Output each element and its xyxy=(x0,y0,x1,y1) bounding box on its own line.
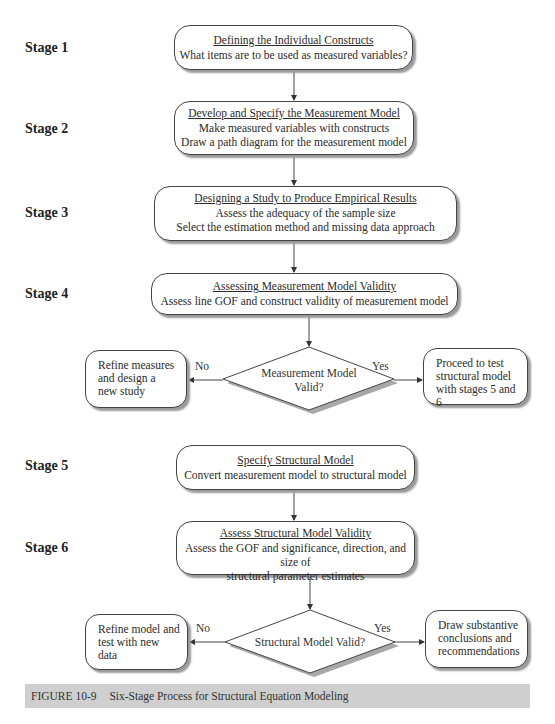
refine-measures-line-3: new study xyxy=(98,385,180,398)
stage-3-label: Stage 3 xyxy=(25,205,68,221)
stage-5-title: Specify Structural Model xyxy=(177,453,414,467)
stage-5-label: Stage 5 xyxy=(25,458,68,474)
stage-2-line-2: Draw a path diagram for the measurement … xyxy=(175,135,413,149)
decision-2-question-line-1: Structural Model Valid? xyxy=(245,635,375,649)
stage-1-title: Defining the Individual Constructs xyxy=(175,33,412,47)
stage-4-title: Assessing Measurement Model Validity xyxy=(152,279,457,293)
decision-1-question-line-2: Valid? xyxy=(243,380,375,394)
stage-4-box: Assessing Measurement Model Validity Ass… xyxy=(151,273,458,315)
refine-model-line-2: test with new xyxy=(98,636,181,649)
stage-3-title: Designing a Study to Produce Empirical R… xyxy=(155,191,456,205)
stage-1-box: Defining the Individual Constructs What … xyxy=(174,25,413,70)
decision-1-yes-label: Yes xyxy=(372,360,389,372)
stage-6-label: Stage 6 xyxy=(25,540,68,556)
refine-model-box: Refine model and test with new data xyxy=(85,614,188,670)
draw-conclusions-line-3: recommendations xyxy=(438,645,521,658)
draw-conclusions-line-1: Draw substantive xyxy=(438,619,521,632)
proceed-line-1: Proceed to test xyxy=(436,357,521,370)
proceed-line-2: structural model xyxy=(436,370,521,383)
refine-model-line-3: data xyxy=(98,649,181,662)
stage-4-label: Stage 4 xyxy=(25,286,68,302)
decision-2-question: Structural Model Valid? xyxy=(245,635,375,649)
refine-measures-line-2: and design a xyxy=(98,372,180,385)
proceed-to-test-box: Proceed to test structural model with st… xyxy=(423,348,528,405)
stage-2-title: Develop and Specify the Measurement Mode… xyxy=(175,106,413,120)
stage-6-title: Assess Structural Model Validity xyxy=(177,526,414,540)
stage-2-label: Stage 2 xyxy=(25,121,68,137)
draw-conclusions-box: Draw substantive conclusions and recomme… xyxy=(425,610,528,668)
decision-1-question-line-1: Measurement Model xyxy=(243,366,375,380)
stage-1-label: Stage 1 xyxy=(25,40,68,56)
refine-model-line-1: Refine model and xyxy=(98,623,181,636)
figure-caption: FIGURE 10-9 Six-Stage Process for Struct… xyxy=(25,684,530,708)
decision-1-question: Measurement Model Valid? xyxy=(243,366,375,394)
figure-caption-text: Six-Stage Process for Structural Equatio… xyxy=(109,690,348,702)
stage-6-line-1: Assess the GOF and significance, directi… xyxy=(177,541,414,569)
stage-5-line: Convert measurement model to structural … xyxy=(177,468,414,482)
stage-2-line-1: Make measured variables with constructs xyxy=(175,121,413,135)
stage-3-line-2: Select the estimation method and missing… xyxy=(155,220,456,234)
figure-number: FIGURE 10-9 xyxy=(31,690,97,702)
stage-6-box: Assess Structural Model Validity Assess … xyxy=(176,521,415,575)
stage-6-line-2: structural parameter estimates xyxy=(177,569,414,583)
proceed-line-3: with stages 5 and 6 xyxy=(436,383,521,409)
decision-2-no-label: No xyxy=(196,622,210,634)
decision-2-yes-label: Yes xyxy=(374,622,391,634)
refine-measures-line-1: Refine measures xyxy=(98,359,180,372)
stage-1-line: What items are to be used as measured va… xyxy=(175,48,412,62)
stage-5-box: Specify Structural Model Convert measure… xyxy=(176,445,415,490)
stage-3-box: Designing a Study to Produce Empirical R… xyxy=(154,186,457,241)
stage-4-line: Assess line GOF and construct validity o… xyxy=(152,294,457,308)
decision-1-no-label: No xyxy=(195,360,209,372)
refine-measures-box: Refine measures and design a new study xyxy=(85,350,187,408)
stage-3-line-1: Assess the adequacy of the sample size xyxy=(155,206,456,220)
draw-conclusions-line-2: conclusions and xyxy=(438,632,521,645)
stage-2-box: Develop and Specify the Measurement Mode… xyxy=(174,101,414,155)
